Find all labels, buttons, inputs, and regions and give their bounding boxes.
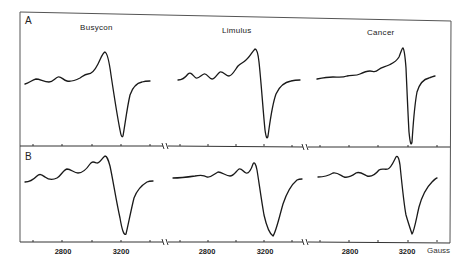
axis-break-mark — [162, 143, 168, 149]
frame-top — [20, 12, 451, 21]
spectrum-b-busycon — [25, 156, 153, 234]
spectrum-b-limulus — [173, 163, 302, 236]
frame — [20, 12, 451, 243]
spectrum-b-cancer — [318, 156, 437, 234]
frame-right — [450, 21, 451, 243]
spectrum-a-limulus — [178, 49, 300, 138]
tick-label-2800-cancer: 2800 — [342, 247, 359, 256]
axis-break-mark — [302, 144, 308, 150]
epr-spectra-figure — [0, 0, 465, 268]
column-label-limulus: Limulus — [222, 26, 252, 35]
column-label-cancer: Cancer — [367, 28, 395, 37]
x-axis-unit-label: Gauss — [427, 246, 450, 255]
tick-label-2800-busycon: 2800 — [55, 247, 72, 256]
bottom-axis — [20, 239, 450, 245]
middle-axis — [20, 143, 450, 150]
tick-label-2800-limulus: 2800 — [199, 247, 216, 256]
tick-label-3200-busycon: 3200 — [113, 247, 130, 256]
spectrum-a-busycon — [25, 52, 150, 137]
row-label-b: B — [25, 151, 32, 162]
axis-break-mark — [162, 239, 168, 245]
row-label-a: A — [25, 15, 32, 26]
tick-label-3200-cancer: 3200 — [399, 247, 416, 256]
spectra-row-a — [25, 48, 435, 144]
spectra-row-b — [25, 156, 437, 236]
column-label-busycon: Busycon — [80, 23, 113, 32]
spectrum-a-cancer — [317, 48, 435, 144]
tick-label-3200-limulus: 3200 — [257, 247, 274, 256]
axis-break-mark — [302, 239, 308, 245]
